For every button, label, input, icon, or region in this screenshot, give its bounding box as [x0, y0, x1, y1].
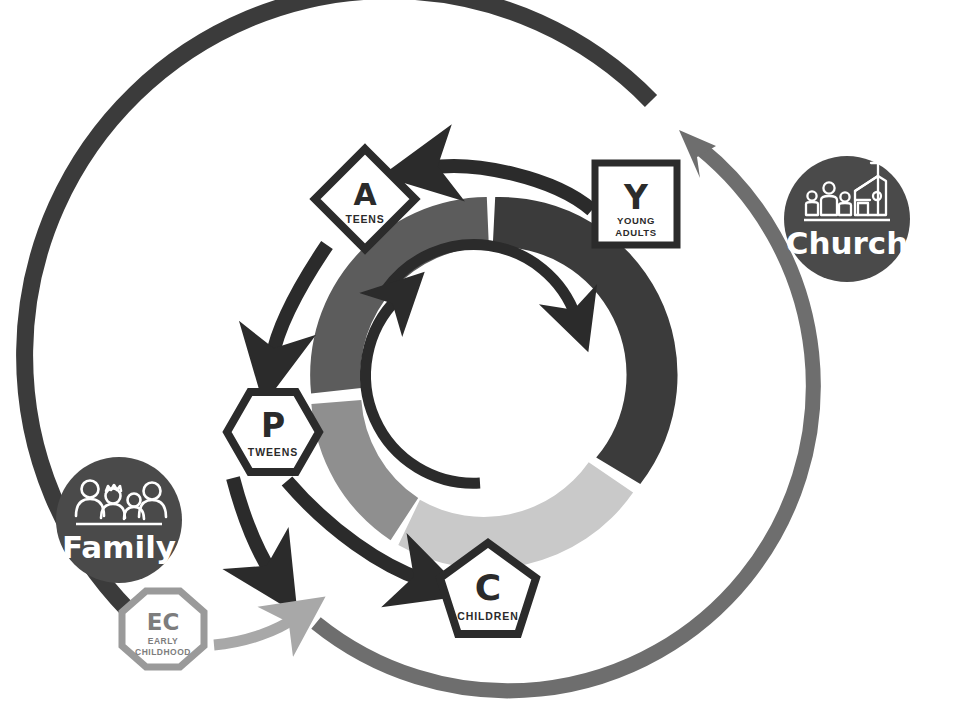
- children-letter: C: [475, 567, 501, 608]
- stage-badge-early-childhood[interactable]: EC EARLY CHILDHOOD: [122, 591, 204, 667]
- family-label: Family: [62, 529, 176, 565]
- early-childhood-caption-line1: EARLY: [148, 636, 179, 646]
- early-childhood-letter: EC: [147, 609, 180, 635]
- hub-family[interactable]: Family: [56, 457, 182, 583]
- teens-letter: A: [353, 177, 377, 212]
- early-childhood-caption-line2: CHILDHOOD: [135, 647, 191, 657]
- stage-badge-tweens[interactable]: P TWEENS: [227, 392, 319, 472]
- young-adults-caption-line2: ADULTS: [615, 227, 656, 238]
- young-adults-letter: Y: [623, 178, 649, 217]
- stage-badge-young-adults[interactable]: Y YOUNG ADULTS: [595, 163, 677, 245]
- inner-flow-arrows: [366, 245, 576, 484]
- inner-arc-bottom: [366, 298, 480, 483]
- church-label: Church: [786, 225, 909, 261]
- arrow-early-childhood-to-children: [214, 618, 295, 645]
- diagram-canvas: A TEENS Y YOUNG ADULTS P TWEENS C CHILDR…: [0, 0, 964, 723]
- hub-church[interactable]: Church: [784, 156, 910, 282]
- teens-caption: TEENS: [345, 213, 384, 225]
- tweens-caption: TWEENS: [248, 446, 298, 458]
- arrow-tweens-to-early-childhood: [233, 478, 272, 574]
- young-adults-caption-line1: YOUNG: [617, 215, 655, 226]
- children-caption: CHILDREN: [457, 610, 518, 622]
- lifecycle-diagram: A TEENS Y YOUNG ADULTS P TWEENS C CHILDR…: [0, 0, 964, 723]
- tweens-letter: P: [261, 406, 285, 445]
